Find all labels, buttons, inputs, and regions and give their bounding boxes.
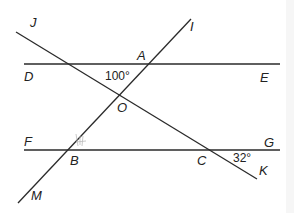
angle-label-100: 100°: [105, 69, 130, 83]
label-A: A: [136, 48, 146, 63]
label-F: F: [24, 134, 33, 149]
line-MI: [18, 19, 191, 203]
label-J: J: [29, 15, 37, 30]
label-I: I: [190, 19, 194, 34]
label-C: C: [197, 153, 207, 168]
label-B: B: [70, 153, 79, 168]
label-M: M: [31, 188, 42, 203]
label-K: K: [259, 163, 269, 178]
label-E: E: [260, 70, 269, 85]
label-O: O: [117, 100, 127, 115]
geometry-diagram: J I A D E O F G B C M K 100° 32°: [0, 0, 294, 213]
angle-label-32: 32°: [233, 151, 251, 165]
label-G: G: [264, 135, 274, 150]
label-D: D: [24, 69, 33, 84]
